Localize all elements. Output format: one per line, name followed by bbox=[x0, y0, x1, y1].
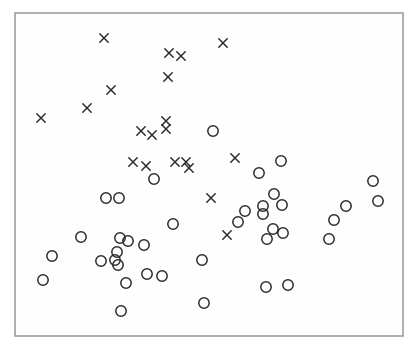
scatter-plot-canvas bbox=[0, 0, 415, 350]
plot-frame bbox=[15, 13, 403, 336]
scatter-plot-figure bbox=[0, 0, 415, 350]
